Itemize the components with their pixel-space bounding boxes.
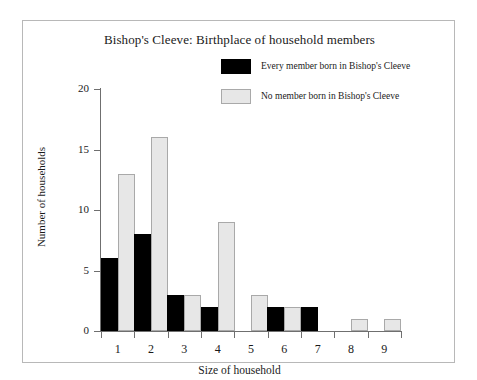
legend-item-series-1: Every member born in Bishop's Cleeve — [221, 58, 451, 80]
x-axis-title: Size of household — [23, 364, 456, 376]
bar-2-series-1 — [134, 234, 151, 331]
x-tick-5 — [234, 332, 235, 338]
bar-9-series-2 — [384, 319, 401, 331]
bar-3-series-2 — [184, 295, 201, 331]
legend-label-series-1: Every member born in Bishop's Cleeve — [261, 60, 410, 72]
y-tick-label-5: 5 — [49, 265, 89, 276]
x-tick-1 — [101, 332, 102, 338]
y-tick-15 — [94, 150, 101, 151]
x-tick-3 — [168, 332, 169, 338]
x-axis-line — [100, 331, 402, 332]
x-tick-end — [401, 332, 402, 338]
y-tick-label-15: 15 — [49, 144, 89, 155]
y-tick-label-10: 10 — [49, 204, 89, 215]
bar-4-series-1 — [201, 307, 218, 331]
x-tick-4 — [201, 332, 202, 338]
y-tick-10 — [94, 210, 101, 211]
x-tick-9 — [368, 332, 369, 338]
bar-3-series-1 — [167, 295, 184, 331]
plot-area — [101, 89, 401, 331]
bar-6-series-1 — [267, 307, 284, 331]
x-tick-7 — [301, 332, 302, 338]
bar-7-series-1 — [301, 307, 318, 331]
chart-title: Bishop's Cleeve: Birthplace of household… — [23, 32, 456, 48]
x-tick-6 — [268, 332, 269, 338]
y-tick-label-0: 0 — [49, 325, 89, 336]
x-tick-8 — [334, 332, 335, 338]
bar-8-series-2 — [351, 319, 368, 331]
bar-4-series-2 — [218, 222, 235, 331]
bar-6-series-2 — [284, 307, 301, 331]
bar-1-series-2 — [118, 174, 135, 331]
x-tick-label-9: 9 — [364, 342, 404, 357]
y-tick-0 — [94, 331, 101, 332]
bar-1-series-1 — [101, 258, 118, 331]
y-axis-title: Number of households — [35, 117, 47, 277]
y-tick-label-20: 20 — [49, 83, 89, 94]
bar-2-series-2 — [151, 137, 168, 331]
y-tick-20 — [94, 89, 101, 90]
chart-figure: Bishop's Cleeve: Birthplace of household… — [22, 20, 455, 363]
legend-swatch-black — [221, 59, 251, 74]
bar-5-series-2 — [251, 295, 268, 331]
x-tick-2 — [134, 332, 135, 338]
